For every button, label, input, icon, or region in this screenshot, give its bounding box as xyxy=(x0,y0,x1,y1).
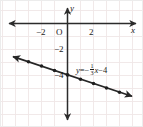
data-point-y-intercept xyxy=(66,73,70,77)
x-tick-label-2: 2 xyxy=(89,28,94,37)
x-tick-label-neg2: −2 xyxy=(36,28,46,37)
coordinate-plane-figure: −2 2 O −2 −4 x y y=−13x−4 xyxy=(0,0,143,127)
figure-background xyxy=(0,0,143,127)
y-axis-name: y xyxy=(70,4,74,13)
equation-label: y=−13x−4 xyxy=(76,63,107,77)
data-point xyxy=(118,90,122,94)
x-axis-name: x xyxy=(131,26,135,35)
data-point xyxy=(27,60,31,64)
y-tick-label-neg2: −2 xyxy=(54,45,64,54)
equation-constant: 4 xyxy=(103,65,107,75)
data-point xyxy=(79,77,83,81)
y-tick-label-neg4: −4 xyxy=(54,71,64,80)
data-point xyxy=(105,86,109,90)
data-point xyxy=(40,64,44,68)
data-point xyxy=(92,82,96,86)
graph-canvas xyxy=(0,0,143,127)
origin-label: O xyxy=(56,28,63,37)
equation-sign: − xyxy=(85,65,90,75)
